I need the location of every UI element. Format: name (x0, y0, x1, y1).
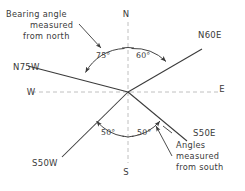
angle-label-north-east: 60° (136, 51, 150, 60)
angle-label-south-east: 50° (137, 128, 151, 137)
north-annotation-line3: from north (23, 31, 70, 41)
bearing-ray-n75w (28, 66, 128, 92)
compass-label-north: N (123, 9, 129, 19)
bearing-ray-s50w (62, 92, 128, 157)
angle-label-south-west: 50° (101, 128, 115, 137)
north-annotation: Bearing angle measured from north (6, 9, 101, 48)
north-annotation-leader (79, 24, 101, 48)
compass-label-south: S (123, 167, 128, 177)
compass-label-west: W (27, 87, 36, 97)
bearing-label-n60e: N60E (198, 30, 222, 40)
north-annotation-line2: measured (30, 20, 73, 30)
south-annotation-line2: measured (176, 151, 219, 161)
bearing-label-s50e: S50E (193, 128, 216, 138)
compass-label-east: E (219, 84, 224, 94)
angle-arc-60-north-tick (128, 48, 134, 49)
south-annotation-line3: from south (176, 162, 224, 172)
bearing-label-s50w: S50W (32, 158, 58, 168)
angle-label-north-west: 75° (96, 51, 110, 60)
angle-arc-75-north-tick (122, 48, 128, 49)
south-annotation-leader (156, 126, 172, 156)
north-annotation-line1: Bearing angle (6, 9, 67, 19)
bearing-diagram-canvas: N S W E 75° 60° 50° 50° N60E N75W S50E S… (0, 0, 245, 191)
south-annotation-line1: Angles (176, 140, 205, 150)
bearing-label-n75w: N75W (13, 62, 40, 72)
